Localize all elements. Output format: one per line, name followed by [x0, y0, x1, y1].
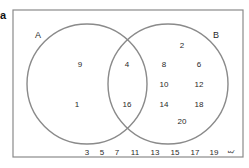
universal-set-symbol: ξ [227, 150, 235, 153]
region-intersection-item: 16 [123, 100, 132, 109]
universal-set-frame [13, 10, 243, 157]
region-a-only-item: 1 [75, 100, 80, 109]
outside-item: 17 [191, 148, 200, 157]
outside-item: 15 [171, 148, 180, 157]
outside-item: 11 [131, 148, 140, 157]
outside-item: 13 [151, 148, 160, 157]
outside-item: 3 [85, 148, 90, 157]
region-b-only-item: 14 [160, 100, 169, 109]
region-b-only-item: 8 [162, 60, 167, 69]
region-b-only-item: 10 [160, 80, 169, 89]
region-b-only-item: 6 [197, 60, 202, 69]
panel-label: a [0, 9, 7, 21]
set-b-label: B [213, 30, 219, 40]
set-a-label: A [35, 30, 41, 40]
outside-item: 5 [100, 148, 105, 157]
region-b-only-item: 18 [195, 100, 204, 109]
region-b-only-item: 12 [195, 80, 204, 89]
region-a-only-item: 9 [78, 60, 83, 69]
outside-item: 7 [115, 148, 120, 157]
outside-item: 19 [210, 148, 219, 157]
venn-diagram: a A B 9 1 4 16 2 8 6 10 12 14 18 20 3 5 … [0, 0, 249, 168]
region-intersection-item: 4 [125, 60, 130, 69]
region-b-only-item: 2 [180, 41, 185, 50]
region-b-only-item: 20 [178, 117, 187, 126]
set-a-circle [27, 24, 147, 144]
